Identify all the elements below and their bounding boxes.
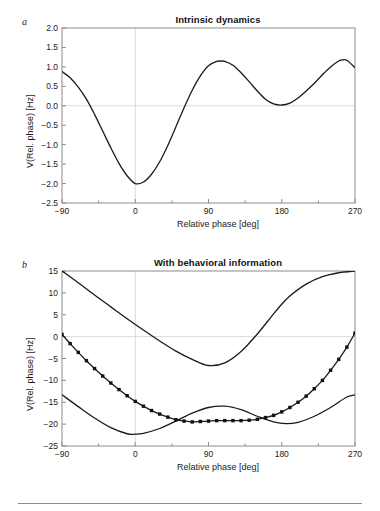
x-tick-label: 0 [133, 449, 138, 459]
data-point-marker [239, 419, 242, 422]
data-point-marker [125, 394, 128, 397]
x-tick-label: 90 [204, 206, 214, 216]
data-point-marker [199, 420, 202, 423]
y-tick-label: 15 [49, 266, 59, 276]
figure-bottom-rule [18, 503, 362, 504]
data-point-marker [60, 333, 63, 336]
y-tick-label: 0 [53, 332, 58, 342]
x-tick-label: 0 [133, 206, 138, 216]
data-point-marker [337, 358, 340, 361]
data-point-marker [85, 359, 88, 362]
y-tick-label: −2.0 [41, 179, 58, 189]
data-point-marker [223, 419, 226, 422]
y-tick-label: −2.5 [41, 198, 58, 208]
y-tick-label: −15 [44, 397, 59, 407]
data-point-marker [296, 401, 299, 404]
y-tick-label: −1.5 [41, 159, 58, 169]
y-tick-label: 0.5 [46, 81, 58, 91]
x-tick-label: 180 [275, 449, 289, 459]
data-point-marker [150, 409, 153, 412]
data-point-marker [142, 404, 145, 407]
data-point-marker [313, 387, 316, 390]
data-point-marker [231, 419, 234, 422]
data-point-marker [264, 416, 267, 419]
y-tick-label: 1.0 [46, 62, 58, 72]
panel-a: a Intrinsic dynamics V(Rel. phase) [Hz] … [0, 0, 380, 245]
data-point-marker [117, 388, 120, 391]
data-point-marker [345, 345, 348, 348]
data-point-marker [134, 400, 137, 403]
data-point-marker [288, 406, 291, 409]
data-point-marker [166, 415, 169, 418]
series-line [62, 60, 355, 184]
x-tick-label: 180 [275, 206, 289, 216]
data-point-marker [207, 419, 210, 422]
data-point-marker [109, 381, 112, 384]
series-group [60, 271, 356, 434]
y-tick-label: −10 [44, 375, 59, 385]
x-tick-label: 270 [348, 206, 362, 216]
plot-frame [62, 28, 355, 203]
data-point-marker [93, 367, 96, 370]
y-tick-label: −25 [44, 441, 59, 451]
data-point-marker [68, 342, 71, 345]
y-tick-label: 0.0 [46, 101, 58, 111]
series-line [62, 271, 355, 366]
y-tick-label: 1.5 [46, 42, 58, 52]
series-line [62, 333, 355, 422]
data-point-marker [272, 414, 275, 417]
data-point-marker [353, 331, 356, 334]
y-tick-label: 5 [53, 310, 58, 320]
data-point-marker [174, 418, 177, 421]
x-tick-label: 90 [204, 449, 214, 459]
data-point-marker [256, 418, 259, 421]
data-point-marker [101, 374, 104, 377]
data-point-marker [304, 394, 307, 397]
data-point-marker [329, 369, 332, 372]
data-point-marker [321, 379, 324, 382]
panel-a-plot: −900901802702.01.51.00.50.0−0.5−1.0−1.5−… [0, 0, 380, 245]
y-tick-label: −5 [48, 354, 58, 364]
data-point-marker [77, 351, 80, 354]
panel-b-plot: −90090180270151050−5−10−15−20−25 [0, 243, 380, 488]
data-point-marker [280, 410, 283, 413]
data-point-marker [182, 419, 185, 422]
data-point-marker [247, 418, 250, 421]
panel-b: b With behavioral information V(Rel. pha… [0, 243, 380, 488]
y-tick-label: −1.0 [41, 140, 58, 150]
data-point-marker [191, 420, 194, 423]
x-tick-label: 270 [348, 449, 362, 459]
series-group [62, 60, 355, 184]
data-point-marker [215, 419, 218, 422]
y-tick-label: −0.5 [41, 120, 58, 130]
figure-container: a Intrinsic dynamics V(Rel. phase) [Hz] … [0, 0, 380, 511]
y-tick-label: 2.0 [46, 23, 58, 33]
y-tick-label: −20 [44, 419, 59, 429]
y-tick-label: 10 [49, 288, 59, 298]
series-line [62, 395, 355, 435]
data-point-marker [158, 412, 161, 415]
